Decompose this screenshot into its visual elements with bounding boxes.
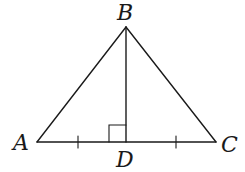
label-a: A: [11, 130, 29, 155]
label-d: D: [115, 147, 134, 172]
segment-bc: [126, 27, 216, 142]
triangle-diagram: B A C D: [0, 0, 245, 172]
label-b: B: [116, 0, 133, 25]
label-c: C: [221, 132, 238, 157]
right-angle-marker: [109, 125, 126, 142]
